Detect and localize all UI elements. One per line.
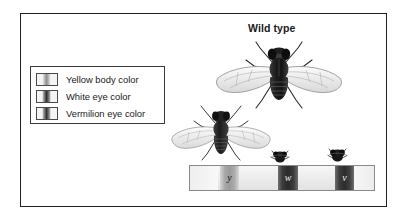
locus-label-w: w [285, 173, 292, 183]
wing-right [283, 66, 342, 92]
legend-item-label: Yellow body color [66, 74, 139, 85]
wild-type-fly [212, 38, 346, 110]
legend-item-label: Vermilion eye color [66, 108, 145, 119]
legend-box: Yellow body color White eye color Vermil… [30, 66, 165, 124]
locus-band-y: y [220, 166, 239, 190]
fly-head-white [270, 150, 290, 163]
band-glyph [42, 91, 51, 102]
mutant-fly [168, 104, 274, 162]
chromosome-band-swatch-yellow [36, 73, 58, 86]
chromosome-shade-right [354, 166, 374, 190]
locus-band-w: w [278, 166, 298, 190]
x-chromosome-map: y w v [189, 165, 375, 191]
locus-band-v: v [335, 166, 354, 190]
chromosome-band-swatch-white [36, 90, 58, 103]
legend-item-vermilion-eye-color: Vermilion eye color [36, 105, 164, 121]
chromosome-shade-left [190, 166, 218, 190]
wild-type-label: Wild type [248, 22, 295, 34]
legend-item-yellow-body-color: Yellow body color [36, 71, 164, 87]
wing-left [216, 66, 275, 92]
band-glyph [42, 108, 51, 119]
chromosome-band-swatch-vermilion [36, 107, 58, 120]
legend-item-white-eye-color: White eye color [36, 88, 164, 104]
locus-label-v: v [342, 173, 346, 183]
drosophila-linkage-figure: Wild type Yellow body color White eye co… [0, 0, 405, 223]
fly-head-vermilion [327, 148, 348, 162]
locus-label-y: y [227, 173, 231, 183]
legend-item-label: White eye color [66, 91, 131, 102]
band-glyph [42, 74, 51, 85]
